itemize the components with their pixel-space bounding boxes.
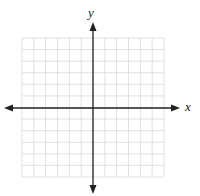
x-axis	[4, 105, 180, 112]
x-axis-label: x	[185, 99, 191, 115]
coordinate-plane	[0, 0, 200, 196]
y-axis-down-arrow-icon	[90, 185, 97, 194]
x-axis-left-arrow-icon	[4, 105, 13, 112]
y-axis-label: y	[88, 5, 94, 21]
y-axis-up-arrow-icon	[90, 22, 97, 31]
x-axis-right-arrow-icon	[171, 105, 180, 112]
